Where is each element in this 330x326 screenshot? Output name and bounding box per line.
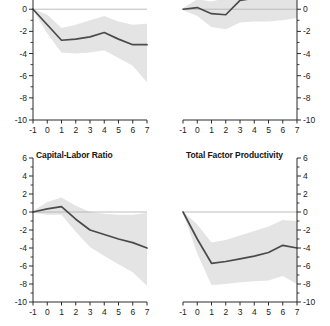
y-tick-label: -4	[19, 243, 27, 253]
confidence-band	[183, 212, 297, 285]
confidence-band	[183, 0, 297, 29]
y-tick-label: 6	[22, 153, 27, 163]
x-tick-label: 1	[59, 125, 64, 135]
panel-title-bottom-right: Total Factor Productivity	[186, 150, 283, 160]
x-tick-label: 7	[145, 307, 150, 317]
x-tick-label: 0	[45, 307, 50, 317]
plot-area-bottom-right: 6420-2-4-6-8-10-101234567	[165, 140, 330, 326]
x-tick-label: 7	[295, 307, 300, 317]
chart-panel-bottom-right: Total Factor Productivity6420-2-4-6-8-10…	[165, 140, 330, 326]
x-tick-label: 0	[195, 307, 200, 317]
x-tick-label: 5	[116, 307, 121, 317]
x-tick-label: 2	[73, 125, 78, 135]
x-tick-label: 1	[209, 307, 214, 317]
x-tick-label: 3	[238, 125, 243, 135]
y-tick-label: -4	[303, 243, 311, 253]
impulse-response-figure: 0-2-4-6-8-10-1012345670-2-4-6-8-10-10123…	[0, 0, 330, 326]
x-tick-label: 6	[280, 125, 285, 135]
x-tick-label: 4	[102, 307, 107, 317]
x-tick-label: 6	[130, 307, 135, 317]
plot-area-top-left: 0-2-4-6-8-10-101234567	[0, 0, 165, 140]
x-tick-label: 3	[88, 125, 93, 135]
x-tick-label: -1	[179, 307, 187, 317]
x-tick-label: 5	[266, 307, 271, 317]
chart-panel-bottom-left: Capital-Labor Ratio6420-2-4-6-8-10-10123…	[0, 140, 165, 326]
y-tick-label: -10	[303, 297, 316, 307]
y-tick-label: 2	[303, 189, 308, 199]
y-tick-label: -4	[19, 49, 27, 59]
x-tick-label: 0	[45, 125, 50, 135]
x-tick-label: 2	[223, 125, 228, 135]
y-tick-label: -2	[19, 225, 27, 235]
y-tick-label: -10	[15, 297, 28, 307]
x-tick-label: 7	[295, 125, 300, 135]
y-tick-label: -4	[303, 49, 311, 59]
y-tick-label: -2	[19, 26, 27, 36]
x-tick-label: 6	[280, 307, 285, 317]
x-tick-label: 1	[59, 307, 64, 317]
confidence-band	[33, 9, 147, 83]
y-tick-label: 0	[303, 207, 308, 217]
y-tick-label: -8	[303, 93, 311, 103]
x-tick-label: 4	[252, 307, 257, 317]
x-tick-label: -1	[29, 125, 37, 135]
x-tick-label: -1	[29, 307, 37, 317]
chart-panel-top-right: 0-2-4-6-8-10-101234567	[165, 0, 330, 140]
x-tick-label: 5	[266, 125, 271, 135]
x-tick-label: 4	[252, 125, 257, 135]
x-tick-label: 5	[116, 125, 121, 135]
y-tick-label: -8	[19, 279, 27, 289]
y-tick-label: 6	[303, 153, 308, 163]
x-tick-label: 2	[73, 307, 78, 317]
x-tick-label: 1	[209, 125, 214, 135]
x-tick-label: -1	[179, 125, 187, 135]
x-tick-label: 3	[238, 307, 243, 317]
y-tick-label: -10	[303, 115, 316, 125]
x-tick-label: 4	[102, 125, 107, 135]
y-tick-label: -10	[15, 115, 28, 125]
plot-area-top-right: 0-2-4-6-8-10-101234567	[165, 0, 330, 140]
y-tick-label: -8	[19, 93, 27, 103]
x-tick-label: 2	[223, 307, 228, 317]
y-tick-label: -6	[303, 261, 311, 271]
y-tick-label: -2	[303, 225, 311, 235]
y-tick-label: 0	[22, 4, 27, 14]
chart-panel-top-left: 0-2-4-6-8-10-101234567	[0, 0, 165, 140]
x-tick-label: 3	[88, 307, 93, 317]
y-tick-label: 0	[303, 4, 308, 14]
x-tick-label: 6	[130, 125, 135, 135]
y-tick-label: 4	[22, 171, 27, 181]
y-tick-label: -2	[303, 26, 311, 36]
y-tick-label: 4	[303, 171, 308, 181]
y-tick-label: 2	[22, 189, 27, 199]
plot-area-bottom-left: 6420-2-4-6-8-10-101234567	[0, 140, 165, 326]
y-tick-label: -6	[19, 71, 27, 81]
x-tick-label: 7	[145, 125, 150, 135]
y-tick-label: -8	[303, 279, 311, 289]
x-tick-label: 0	[195, 125, 200, 135]
y-tick-label: -6	[303, 71, 311, 81]
y-tick-label: 0	[22, 207, 27, 217]
y-tick-label: -6	[19, 261, 27, 271]
panel-title-bottom-left: Capital-Labor Ratio	[36, 150, 113, 160]
